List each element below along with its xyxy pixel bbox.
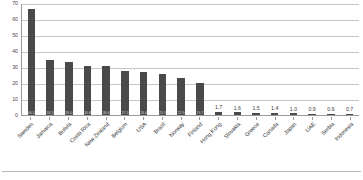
bar-slot: 1.7 xyxy=(209,4,228,115)
bar[interactable]: 25.9 xyxy=(159,74,167,115)
bar[interactable] xyxy=(290,113,298,115)
x-tick xyxy=(312,117,313,120)
x-tick xyxy=(162,117,163,120)
plot-wrapper: 010203040506070 66.534.333.030.830.627.3… xyxy=(0,0,363,124)
y-tick-label: 70 xyxy=(12,1,18,6)
bar-slot: 27.3 xyxy=(116,4,135,115)
x-tick xyxy=(68,117,69,120)
x-tick xyxy=(87,117,88,120)
x-tick xyxy=(331,117,332,120)
x-tick xyxy=(199,117,200,120)
bar-slot: 1.4 xyxy=(265,4,284,115)
bar[interactable]: 30.6 xyxy=(102,66,110,115)
bar-value-label: 34.3 xyxy=(47,111,54,115)
x-axis-label: USA xyxy=(135,121,147,133)
bar-value-label: 0.9 xyxy=(327,107,334,112)
bar-value-label: 19.7 xyxy=(196,111,203,115)
bar-value-label: 30.6 xyxy=(103,111,110,115)
bar-value-label: 25.9 xyxy=(159,111,166,115)
y-tick-label: 30 xyxy=(12,65,18,70)
bars-layer: 66.534.333.030.830.627.326.625.922.919.7… xyxy=(22,4,359,115)
bar[interactable]: 34.3 xyxy=(46,60,54,115)
x-axis-label: Greece xyxy=(243,121,260,138)
y-axis: 010203040506070 xyxy=(0,0,20,116)
bar[interactable] xyxy=(271,113,279,115)
bar[interactable]: 27.3 xyxy=(121,71,129,115)
x-tick xyxy=(30,117,31,120)
x-axis-slot: Serbia xyxy=(322,117,341,173)
bar-value-label: 1.5 xyxy=(252,106,259,111)
bar-value-label: 27.3 xyxy=(121,111,128,115)
bar-value-label: 26.6 xyxy=(140,111,147,115)
bar-slot: 22.9 xyxy=(172,4,191,115)
bar-slot: 0.9 xyxy=(322,4,341,115)
x-axis-slot: Belgium xyxy=(115,117,134,173)
bar[interactable] xyxy=(234,112,242,115)
x-tick xyxy=(218,117,219,120)
bar-chart: 010203040506070 66.534.333.030.830.627.3… xyxy=(0,0,363,180)
x-axis-slot: Hong Kong xyxy=(209,117,228,173)
bar[interactable] xyxy=(346,114,354,115)
x-axis-slot: Norway xyxy=(171,117,190,173)
x-axis-label: Brazil xyxy=(152,121,166,135)
x-axis-slot: Brazil xyxy=(152,117,171,173)
x-axis-label: Finland xyxy=(187,121,204,138)
bar[interactable]: 19.7 xyxy=(196,83,204,115)
bar-value-label: 1.7 xyxy=(215,105,222,110)
bar-slot: 30.8 xyxy=(78,4,97,115)
x-tick xyxy=(124,117,125,120)
x-tick xyxy=(106,117,107,120)
bar-value-label: 1.6 xyxy=(234,106,241,111)
x-axis-slot: Canada xyxy=(265,117,284,173)
bar[interactable]: 26.6 xyxy=(140,72,148,115)
footer-strip xyxy=(0,173,363,180)
bar-slot: 25.9 xyxy=(153,4,172,115)
x-axis-slot: UAE xyxy=(303,117,322,173)
bar[interactable] xyxy=(252,113,260,115)
x-tick xyxy=(293,117,294,120)
bar-slot: 19.7 xyxy=(190,4,209,115)
bar-value-label: 1.0 xyxy=(290,107,297,112)
bar-value-label: 1.4 xyxy=(271,106,278,111)
x-tick xyxy=(143,117,144,120)
y-tick-label: 50 xyxy=(12,33,18,38)
x-axis-slot: New Zealand xyxy=(96,117,115,173)
bar[interactable]: 22.9 xyxy=(177,78,185,115)
bar-value-label: 0.7 xyxy=(346,107,353,112)
y-tick-label: 40 xyxy=(12,49,18,54)
bar[interactable] xyxy=(215,112,223,115)
x-axis-slot: Sweden xyxy=(21,117,40,173)
y-tick-label: 0 xyxy=(15,113,18,118)
bar-slot: 1.5 xyxy=(247,4,266,115)
bar-value-label: 66.5 xyxy=(28,111,35,115)
bar-value-label: 0.9 xyxy=(309,107,316,112)
x-tick xyxy=(256,117,257,120)
x-axis-slot: Slovakia xyxy=(228,117,247,173)
bar-slot: 0.7 xyxy=(340,4,359,115)
bar-slot: 1.6 xyxy=(228,4,247,115)
bar[interactable]: 66.5 xyxy=(28,9,36,115)
x-axis: SwedenJamaicaBoliviaCosta RicaNew Zealan… xyxy=(21,117,359,173)
x-axis-slot: Indonesia xyxy=(340,117,359,173)
x-tick xyxy=(49,117,50,120)
bottom-divider xyxy=(2,171,361,172)
x-axis-label: Japan xyxy=(283,121,298,136)
bar[interactable] xyxy=(308,114,316,115)
x-axis-slot: Jamaica xyxy=(40,117,59,173)
bar-value-label: 33.0 xyxy=(65,111,72,115)
y-tick-label: 10 xyxy=(12,97,18,102)
bar[interactable]: 33.0 xyxy=(65,62,73,115)
bar-value-label: 22.9 xyxy=(178,111,185,115)
x-axis-label: UAE xyxy=(304,121,316,133)
x-axis-label: Bolivia xyxy=(57,121,72,136)
x-tick xyxy=(275,117,276,120)
bar-slot: 66.5 xyxy=(22,4,41,115)
bar-slot: 1.0 xyxy=(284,4,303,115)
bar-slot: 30.6 xyxy=(97,4,116,115)
bar[interactable]: 30.8 xyxy=(84,66,92,115)
x-tick xyxy=(181,117,182,120)
y-tick-label: 20 xyxy=(12,81,18,86)
bar-slot: 26.6 xyxy=(134,4,153,115)
y-tick-label: 60 xyxy=(12,17,18,22)
bar[interactable] xyxy=(327,114,335,115)
